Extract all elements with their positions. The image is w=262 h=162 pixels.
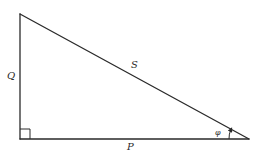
label-p: P — [126, 141, 134, 152]
label-s: S — [131, 59, 138, 70]
angle-arc-phi — [229, 130, 231, 140]
label-q: Q — [7, 70, 15, 81]
label-phi: φ — [215, 128, 221, 137]
side-s-hypotenuse — [20, 14, 249, 139]
right-triangle-diagram: Q S P φ — [0, 0, 262, 162]
right-angle-marker — [20, 129, 30, 139]
